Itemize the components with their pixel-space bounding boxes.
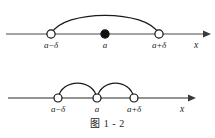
upper-label-a-plus-delta: a+δ bbox=[152, 41, 166, 50]
upper-point-a-minus-delta bbox=[47, 30, 55, 38]
lower-axis-label-x: x bbox=[180, 105, 184, 115]
lower-label-a: a bbox=[95, 105, 99, 114]
upper-label-a-minus-delta: a−δ bbox=[44, 41, 58, 50]
figure-container: a−δ a a+δ x a−δ a a+δ x 图 1 - 2 bbox=[0, 0, 215, 138]
lower-diagram bbox=[8, 83, 196, 102]
upper-axis-label-x: x bbox=[194, 41, 198, 51]
lower-arc-right bbox=[97, 83, 134, 98]
lower-point-a-minus-delta bbox=[54, 94, 62, 102]
lower-point-a bbox=[93, 94, 101, 102]
lower-label-a-minus-delta: a−δ bbox=[51, 105, 65, 114]
figure-caption: 图 1 - 2 bbox=[0, 119, 215, 129]
upper-point-a bbox=[101, 30, 109, 38]
upper-label-a: a bbox=[103, 41, 107, 50]
upper-point-a-plus-delta bbox=[155, 30, 163, 38]
lower-point-a-plus-delta bbox=[130, 94, 138, 102]
lower-axis-arrowhead bbox=[188, 95, 196, 102]
lower-arc-left bbox=[58, 83, 97, 98]
lower-label-a-plus-delta: a+δ bbox=[127, 105, 141, 114]
upper-diagram bbox=[6, 15, 211, 38]
upper-axis-arrowhead bbox=[203, 31, 211, 38]
